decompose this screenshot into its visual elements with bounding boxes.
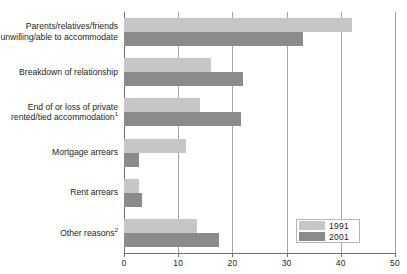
category-group bbox=[0, 18, 407, 46]
gridline-40 bbox=[341, 12, 342, 253]
bar-1991 bbox=[124, 139, 186, 153]
bar-2001 bbox=[124, 72, 243, 86]
bar-1991 bbox=[124, 179, 139, 193]
chart-legend: 1991 2001 bbox=[296, 219, 360, 243]
gridline-50 bbox=[395, 12, 396, 253]
x-tick-label-40: 40 bbox=[336, 258, 346, 268]
x-tick-0 bbox=[124, 253, 125, 257]
category-group bbox=[0, 179, 407, 207]
legend-label-2001: 2001 bbox=[329, 232, 349, 242]
legend-swatch-1991 bbox=[299, 221, 325, 230]
x-tick-label-50: 50 bbox=[390, 258, 400, 268]
legend-item-2001: 2001 bbox=[297, 231, 359, 242]
category-group bbox=[0, 98, 407, 126]
x-tick-label-30: 30 bbox=[282, 258, 292, 268]
legend-swatch-2001 bbox=[299, 232, 325, 241]
bar-2001 bbox=[124, 153, 139, 167]
gridline-30 bbox=[287, 12, 288, 253]
gridline-10 bbox=[178, 12, 179, 253]
x-tick-50 bbox=[395, 253, 396, 257]
x-tick-30 bbox=[287, 253, 288, 257]
bar-1991 bbox=[124, 58, 211, 72]
x-axis-line bbox=[124, 253, 396, 254]
gridline-20 bbox=[232, 12, 233, 253]
legend-label-1991: 1991 bbox=[329, 221, 349, 231]
legend-item-1991: 1991 bbox=[297, 220, 359, 231]
y-axis-line bbox=[124, 12, 125, 253]
x-tick-20 bbox=[232, 253, 233, 257]
x-tick-label-10: 10 bbox=[173, 258, 183, 268]
x-tick-10 bbox=[178, 253, 179, 257]
bar-chart: 01020304050 Parents/relatives/friendsunw… bbox=[0, 0, 407, 274]
bar-2001 bbox=[124, 193, 142, 207]
category-group bbox=[0, 139, 407, 167]
bar-2001 bbox=[124, 233, 219, 247]
x-tick-label-0: 0 bbox=[122, 258, 127, 268]
bar-1991 bbox=[124, 18, 352, 32]
bar-2001 bbox=[124, 112, 241, 126]
bar-1991 bbox=[124, 219, 197, 233]
x-tick-40 bbox=[341, 253, 342, 257]
category-group bbox=[0, 58, 407, 86]
x-tick-label-20: 20 bbox=[227, 258, 237, 268]
bar-2001 bbox=[124, 32, 303, 46]
bar-1991 bbox=[124, 98, 200, 112]
